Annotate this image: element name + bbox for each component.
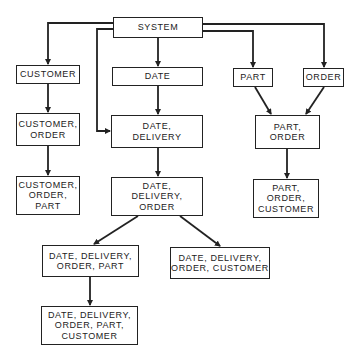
node-date: DATE — [112, 67, 203, 86]
edge-order-to-part_order — [306, 87, 324, 114]
edge-date_delivery_order-to-ddo_customer — [180, 216, 220, 246]
node-customer: CUSTOMER — [16, 65, 80, 84]
edge-part-to-part_order — [255, 87, 271, 114]
node-system: SYSTEM — [113, 17, 203, 38]
node-part-order: PART, ORDER — [255, 115, 320, 149]
node-part: PART — [233, 68, 273, 87]
node-part-order-customer: PART, ORDER, CUSTOMER — [253, 179, 319, 218]
node-date-delivery-order: DATE, DELIVERY, ORDER — [111, 177, 203, 216]
node-ddo-part: DATE, DELIVERY, ORDER, PART — [42, 245, 139, 277]
node-customer-order: CUSTOMER, ORDER — [16, 113, 80, 146]
node-ddo-customer: DATE, DELIVERY, ORDER, CUSTOMER — [170, 247, 270, 279]
edge-system-to-part — [203, 31, 253, 67]
edge-date_delivery_order-to-ddo_part — [94, 216, 138, 244]
node-date-delivery: DATE, DELIVERY — [111, 115, 203, 148]
node-ddo-part-customer: DATE, DELIVERY, ORDER, PART, CUSTOMER — [41, 306, 138, 345]
node-customer-order-part: CUSTOMER, ORDER, PART — [16, 176, 80, 215]
node-order: ORDER — [303, 68, 344, 87]
